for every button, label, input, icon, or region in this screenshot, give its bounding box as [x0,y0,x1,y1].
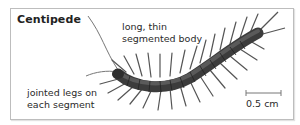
scale-bar [246,90,281,96]
scale-bar-label: 0.5 cm [246,98,279,109]
